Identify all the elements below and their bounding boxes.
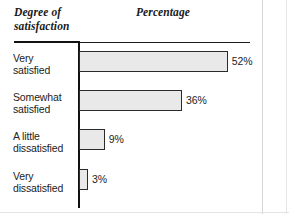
- value-header: Percentage: [136, 6, 190, 20]
- bar-value-label: 9%: [109, 129, 124, 150]
- chart-canvas: Degree of satisfaction Percentage Very s…: [0, 0, 289, 214]
- category-header: Degree of satisfaction: [14, 6, 76, 33]
- frame-bottom-line: [0, 212, 289, 213]
- row-label-line1: Very: [13, 52, 75, 64]
- bar-value-label: 3%: [92, 169, 107, 190]
- row-label: A little dissatisfied: [13, 130, 75, 154]
- table-row: Very satisfied 52%: [0, 48, 289, 86]
- row-label: Very satisfied: [13, 52, 75, 76]
- bar: [79, 90, 182, 111]
- row-label-line1: A little: [13, 130, 75, 142]
- table-row: A little dissatisfied 9%: [0, 127, 289, 165]
- table-row: Very dissatisfied 3%: [0, 166, 289, 204]
- header-rule-right: [80, 42, 250, 43]
- row-label: Somewhat satisfied: [13, 91, 75, 115]
- bar-value-label: 36%: [186, 90, 207, 111]
- bar: [79, 51, 228, 72]
- header-rule-left: [14, 41, 78, 43]
- bar-value-label: 52%: [232, 51, 253, 72]
- bar: [79, 169, 88, 190]
- bar: [79, 129, 105, 150]
- row-label-line2: satisfied: [13, 103, 75, 115]
- table-row: Somewhat satisfied 36%: [0, 88, 289, 126]
- row-label-line2: dissatisfied: [13, 182, 75, 194]
- row-label-line2: dissatisfied: [13, 142, 75, 154]
- row-label-line2: satisfied: [13, 64, 75, 76]
- row-label: Very dissatisfied: [13, 170, 75, 194]
- row-label-line1: Very: [13, 170, 75, 182]
- row-label-line1: Somewhat: [13, 91, 75, 103]
